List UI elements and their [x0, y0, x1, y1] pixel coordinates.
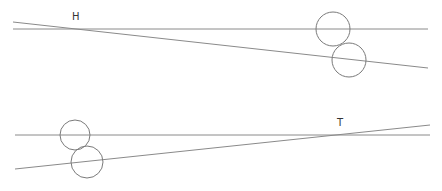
top-diagram: H: [13, 11, 428, 77]
label-t: T: [336, 117, 344, 128]
bottom-circle-2: [71, 146, 103, 178]
top-circle-2: [332, 43, 366, 77]
label-h: H: [72, 11, 80, 22]
diagram-canvas: H T: [0, 0, 442, 191]
bottom-diagram: T: [15, 117, 430, 178]
bottom-sloped-line: [15, 125, 430, 169]
